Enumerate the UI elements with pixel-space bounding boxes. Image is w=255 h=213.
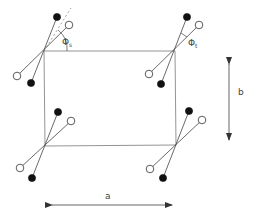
b-axis-arrow: b	[229, 64, 244, 140]
phi-t-arc	[181, 33, 187, 37]
molecule-top-left: Φs	[13, 8, 73, 87]
filled-atom-lower	[28, 174, 35, 181]
unit-cell-diagram: Φs Φt b a	[0, 0, 255, 213]
filled-atom-upper	[183, 13, 190, 20]
phi-t-label: Φt	[188, 38, 198, 49]
filled-atom-lower	[27, 79, 34, 86]
a-axis-arrow: a	[52, 191, 172, 205]
unit-cell-rectangle	[44, 51, 176, 146]
a-label: a	[105, 191, 111, 201]
filled-atom-lower	[159, 174, 166, 181]
molecule-top-right: Φt	[145, 13, 203, 87]
filled-atom-upper	[54, 108, 61, 115]
b-label: b	[238, 87, 244, 97]
open-atom-lower	[16, 164, 24, 172]
filled-atom-lower	[157, 80, 164, 87]
filled-atom-upper	[53, 13, 60, 20]
open-atom-lower	[146, 165, 154, 173]
open-atom-upper	[67, 117, 75, 125]
phi-s-label: Φs	[62, 37, 72, 48]
filled-atom-upper	[185, 107, 192, 114]
open-atom-upper	[65, 21, 73, 29]
open-atom-lower	[13, 72, 21, 80]
molecule-bottom-left	[16, 108, 75, 181]
open-atom-lower	[145, 70, 153, 78]
open-atom-upper	[198, 116, 206, 124]
open-atom-upper	[195, 21, 203, 29]
